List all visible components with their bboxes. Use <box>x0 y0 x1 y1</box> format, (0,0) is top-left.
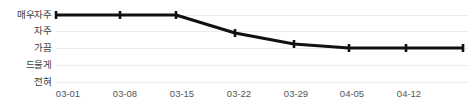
x-axis-label-04-05: 04-05 <box>327 88 377 99</box>
frequency-line-chart: 매우자주 자주 가끔 드물게 전혀 03-01 03-08 03-15 03-2… <box>0 0 474 107</box>
x-axis: 03-01 03-08 03-15 03-22 03-29 04-05 04-1… <box>0 0 474 107</box>
x-axis-label-03-01: 03-01 <box>43 88 93 99</box>
x-axis-label-03-29: 03-29 <box>271 88 321 99</box>
x-axis-label-03-08: 03-08 <box>100 88 150 99</box>
x-axis-label-03-15: 03-15 <box>157 88 207 99</box>
x-axis-label-03-22: 03-22 <box>214 88 264 99</box>
x-axis-label-04-12: 04-12 <box>384 88 434 99</box>
